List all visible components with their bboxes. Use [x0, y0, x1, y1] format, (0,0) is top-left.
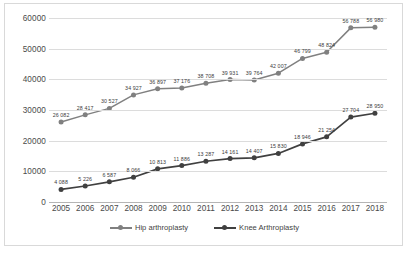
data-point-label: 38 708: [198, 73, 215, 79]
data-point-label: 10 813: [149, 159, 166, 165]
data-point-marker: [83, 112, 88, 117]
data-point-marker: [300, 56, 305, 61]
x-axis-tick-label: 2018: [366, 204, 384, 213]
data-point-label: 14 161: [222, 149, 239, 155]
data-point-marker: [252, 155, 257, 160]
data-point-label: 18 946: [294, 134, 311, 140]
data-point-marker: [228, 156, 233, 161]
data-point-label: 36 897: [149, 79, 166, 85]
y-axis-tick-label: 10000: [6, 167, 46, 176]
x-axis-tick-label: 2011: [197, 204, 215, 213]
x-axis-tick-label: 2006: [76, 204, 94, 213]
data-point-marker: [179, 85, 184, 90]
data-point-label: 34 927: [125, 85, 142, 91]
x-axis: 2005200620072008200920102011201220132014…: [49, 204, 387, 218]
gridline: [49, 110, 387, 111]
data-point-label: 37 176: [173, 78, 190, 84]
x-axis-tick-label: 2009: [149, 204, 167, 213]
data-point-marker: [131, 175, 136, 180]
data-point-marker: [348, 115, 353, 120]
legend-marker-icon: [110, 224, 132, 231]
data-point-label: 11 886: [174, 156, 190, 162]
data-point-marker: [203, 81, 208, 86]
gridline: [49, 49, 387, 50]
data-point-label: 27 704: [342, 107, 359, 113]
data-point-label: 8 066: [127, 167, 141, 173]
x-axis-tick-label: 2010: [173, 204, 191, 213]
data-point-label: 48 824: [318, 42, 335, 48]
x-axis-tick-label: 2005: [52, 204, 70, 213]
data-point-marker: [59, 120, 64, 125]
x-axis-tick-label: 2017: [342, 204, 360, 213]
data-point-label: 46 799: [294, 48, 311, 54]
data-point-label: 13 287: [198, 151, 215, 157]
data-point-label: 56 788: [342, 18, 359, 24]
legend-item[interactable]: Knee Arthroplasty: [214, 223, 299, 232]
x-axis-tick-label: 2008: [124, 204, 142, 213]
series-line: [61, 113, 375, 189]
data-point-label: 28 417: [77, 105, 94, 111]
y-axis-tick-label: 60000: [6, 14, 46, 23]
chart-container: 0100002000030000400005000060000 26 08228…: [4, 3, 403, 246]
gridline: [49, 18, 387, 19]
y-axis-tick-label: 40000: [6, 75, 46, 84]
legend-label: Hip arthroplasty: [135, 223, 188, 232]
gridline: [49, 79, 387, 80]
gridline: [49, 141, 387, 142]
legend-marker-icon: [214, 224, 236, 231]
data-point-marker: [155, 86, 160, 91]
y-axis-tick-label: 0: [6, 198, 46, 207]
data-point-label: 28 950: [367, 103, 384, 109]
data-point-marker: [179, 163, 184, 168]
x-axis-tick-label: 2007: [100, 204, 118, 213]
chart-legend: Hip arthroplastyKnee Arthroplasty: [5, 223, 404, 232]
data-point-label: 56 980: [367, 17, 384, 23]
x-axis-tick-label: 2014: [269, 204, 287, 213]
data-point-label: 14 407: [246, 148, 263, 154]
x-axis-tick-label: 2012: [221, 204, 239, 213]
x-axis-tick-label: 2013: [245, 204, 263, 213]
data-point-label: 26 082: [53, 112, 70, 118]
data-point-marker: [372, 111, 377, 116]
data-point-label: 30 527: [101, 98, 118, 104]
gridline: [49, 171, 387, 172]
data-point-label: 4 088: [54, 179, 68, 185]
data-point-marker: [203, 159, 208, 164]
data-point-marker: [276, 151, 281, 156]
legend-item[interactable]: Hip arthroplasty: [110, 223, 188, 232]
y-axis-tick-label: 50000: [6, 44, 46, 53]
x-axis-tick-label: 2016: [318, 204, 336, 213]
y-axis: 0100002000030000400005000060000: [5, 18, 46, 202]
data-point-marker: [83, 183, 88, 188]
legend-label: Knee Arthroplasty: [239, 223, 299, 232]
data-point-label: 6 587: [102, 172, 116, 178]
x-axis-line: [49, 202, 387, 203]
data-point-marker: [131, 92, 136, 97]
data-point-marker: [324, 134, 329, 139]
data-point-marker: [372, 25, 377, 30]
y-axis-tick-label: 20000: [6, 136, 46, 145]
data-point-label: 21 254: [318, 127, 335, 133]
data-point-label: 39 764: [246, 70, 263, 76]
x-axis-tick-label: 2015: [293, 204, 311, 213]
data-point-marker: [348, 25, 353, 30]
data-point-label: 5 226: [78, 176, 92, 182]
data-point-marker: [59, 187, 64, 192]
data-point-marker: [324, 50, 329, 55]
data-point-marker: [107, 179, 112, 184]
data-point-marker: [276, 71, 281, 76]
data-point-marker: [300, 141, 305, 146]
data-point-label: 42 007: [270, 63, 287, 69]
data-point-label: 15 830: [270, 143, 287, 149]
data-point-label: 39 931: [222, 70, 239, 76]
plot-area: 26 08228 41730 52734 92736 89737 17638 7…: [49, 18, 387, 202]
y-axis-tick-label: 30000: [6, 106, 46, 115]
